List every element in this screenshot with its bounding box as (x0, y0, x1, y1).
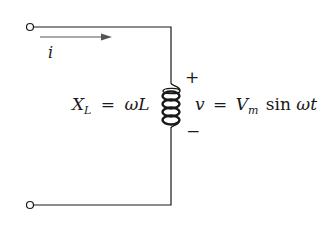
reactance-expression: ωL (124, 94, 149, 114)
reactance-symbol: X (72, 94, 84, 114)
bottom-wire (34, 128, 172, 205)
reactance-equals: = (101, 94, 115, 114)
voltage-amplitude: V (236, 94, 248, 114)
voltage-function: sin (266, 94, 291, 114)
circuit-diagram (0, 0, 335, 235)
voltage-argument: ωt (296, 94, 317, 114)
bottom-terminal (27, 202, 34, 209)
current-arrow-icon (40, 34, 112, 41)
reactance-subscript: L (84, 104, 91, 117)
voltage-equals: = (213, 94, 227, 114)
voltage-symbol: v (195, 94, 205, 114)
voltage-amplitude-subscript: m (248, 104, 258, 117)
current-label: i (48, 43, 53, 62)
top-terminal (27, 24, 34, 31)
reactance-equation: XL = ωL (72, 94, 150, 117)
inductor-coil-icon (163, 83, 181, 128)
polarity-minus: − (186, 121, 200, 141)
polarity-plus: + (185, 67, 199, 87)
voltage-equation: v = Vm sin ωt (195, 94, 317, 117)
